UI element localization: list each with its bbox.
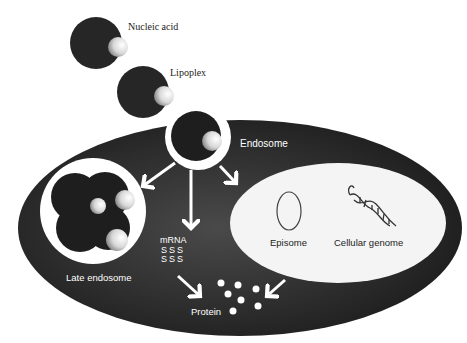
label-episome: Episome bbox=[270, 237, 307, 248]
endosome bbox=[165, 104, 231, 170]
label-nucleic-acid: Nucleic acid bbox=[128, 21, 178, 32]
label-mrna: mRNA bbox=[160, 235, 187, 245]
nucleic-acid-particle bbox=[70, 17, 128, 69]
gene-delivery-diagram: Nucleic acid Lipoplex Endosome Late endo… bbox=[0, 0, 467, 343]
label-lipoplex: Lipoplex bbox=[170, 67, 206, 78]
label-endosome: Endosome bbox=[240, 138, 288, 149]
nucleus bbox=[230, 163, 446, 283]
mrna-glyphs-row-2: SSS bbox=[161, 254, 185, 264]
label-protein: Protein bbox=[191, 306, 221, 317]
label-cellular-genome: Cellular genome bbox=[334, 237, 403, 248]
late-endosome bbox=[40, 158, 146, 264]
lipoplex-particle bbox=[117, 66, 174, 118]
label-late-endosome: Late endosome bbox=[66, 272, 132, 283]
